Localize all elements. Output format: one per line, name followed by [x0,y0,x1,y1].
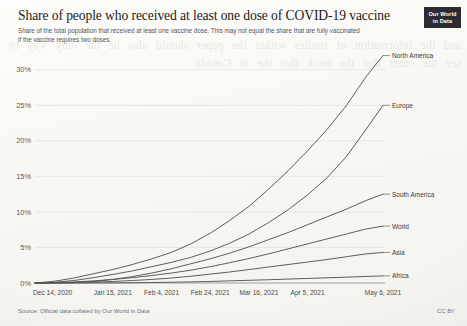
series-label-asia[interactable]: Asia [392,249,405,256]
y-axis-tick-label: 10% [16,208,31,217]
y-axis-tick-label: 15% [16,172,31,181]
x-axis-tick-label: Jan 15, 2021 [94,289,132,296]
series-label-world[interactable]: World [392,223,409,230]
owid-chart-card: and the information of studies within th… [0,0,467,326]
x-axis-tick-label: Dec 14, 2020 [33,289,73,296]
license-note[interactable]: CC BY [437,308,455,314]
x-axis-tick-label: Feb 24, 2021 [191,289,230,296]
series-line-north-america[interactable] [35,56,383,283]
chart-plot-area: 0%5%10%15%20%25%30%Dec 14, 2020Jan 15, 2… [0,0,467,326]
series-label-africa[interactable]: Africa [392,272,409,279]
x-axis-tick-label: Apr 5, 2021 [291,289,325,297]
series-label-europe[interactable]: Europe [392,102,413,110]
y-axis-tick-label: 5% [20,243,31,252]
source-note: Source: Official data collated by Our Wo… [18,308,149,314]
x-axis-tick-label: Mar 16, 2021 [239,289,278,296]
y-axis-tick-label: 20% [16,136,31,145]
series-label-south-america[interactable]: South America [392,191,435,198]
x-axis-tick-label: May 6, 2021 [365,289,402,297]
series-line-europe[interactable] [35,105,383,283]
y-axis-tick-label: 0% [20,279,31,288]
y-axis-tick-label: 30% [16,65,31,74]
series-line-south-america[interactable] [35,194,383,283]
chart-footer: Source: Official data collated by Our Wo… [18,308,457,318]
series-label-north-america[interactable]: North America [392,52,434,59]
x-axis-tick-label: Feb 4, 2021 [144,289,180,296]
y-axis-tick-label: 25% [16,101,31,110]
